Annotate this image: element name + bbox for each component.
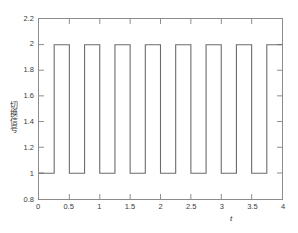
y-tick-label: 1 bbox=[30, 170, 34, 178]
x-tick-label: 0 bbox=[36, 203, 40, 211]
plot-axes-box bbox=[38, 18, 283, 200]
y-tick-label: 1.2 bbox=[24, 144, 34, 152]
square-wave-plot bbox=[39, 19, 282, 199]
x-tick-label: 3 bbox=[220, 203, 224, 211]
x-tick-label: 1.5 bbox=[125, 203, 135, 211]
x-axis-title: t bbox=[0, 214, 298, 223]
waveform-line bbox=[39, 45, 282, 174]
y-tick-label: 1.6 bbox=[24, 92, 34, 100]
x-tick-label: 0.5 bbox=[63, 203, 73, 211]
x-tick-label: 3.5 bbox=[247, 203, 257, 211]
y-tick-label: 1.4 bbox=[24, 118, 34, 126]
x-tick-label: 4 bbox=[281, 203, 285, 211]
y-tick-label: 0.8 bbox=[24, 196, 34, 204]
x-tick-label: 2.5 bbox=[186, 203, 196, 211]
x-axis-title-text: t bbox=[230, 214, 232, 223]
x-tick-label: 2 bbox=[158, 203, 162, 211]
figure-canvas: 切换信号 0.8 1 1.2 1.4 1.6 1.8 2 2.2 bbox=[0, 0, 298, 233]
y-tick-label: 2.2 bbox=[24, 15, 34, 23]
y-tick-label: 2 bbox=[30, 40, 34, 48]
y-tick-label: 1.8 bbox=[24, 66, 34, 74]
y-axis-tick-labels: 0.8 1 1.2 1.4 1.6 1.8 2 2.2 bbox=[0, 0, 34, 233]
x-tick-label: 1 bbox=[97, 203, 101, 211]
